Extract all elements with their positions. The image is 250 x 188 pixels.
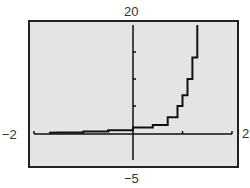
xmax-label: 2 [242,127,249,140]
ymax-label: 20 [124,5,138,18]
ymin-label: −5 [124,172,139,185]
graph-plot [0,0,250,188]
xmin-label: −2 [2,128,17,141]
